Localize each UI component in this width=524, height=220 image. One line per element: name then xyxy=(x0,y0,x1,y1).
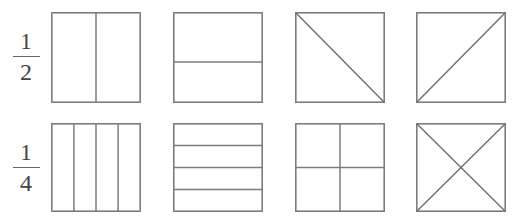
fraction-denominator: 2 xyxy=(20,60,32,84)
fraction-label-one-quarter: 1 4 xyxy=(6,134,46,202)
fraction-denominator: 4 xyxy=(20,171,32,195)
square-diagonal-quarters xyxy=(416,123,506,212)
square-vertical-halves xyxy=(51,12,141,103)
square-horizontal-quarters-svg xyxy=(173,123,263,212)
square-cross-quarters xyxy=(295,123,385,212)
fraction-worksheet: 1 2 1 4 xyxy=(0,0,524,220)
square-diagonal-halves-bl-tr xyxy=(416,12,506,103)
square-diagonal-halves-tl-br xyxy=(295,12,385,103)
square-vertical-halves-svg xyxy=(51,12,141,103)
fraction-numerator: 1 xyxy=(20,30,32,53)
square-diagonal-quarters-svg xyxy=(416,123,506,212)
fraction-bar xyxy=(13,56,40,57)
square-vertical-quarters-svg xyxy=(51,123,141,212)
fraction-label-one-half: 1 2 xyxy=(6,23,46,91)
square-horizontal-quarters xyxy=(173,123,263,212)
square-horizontal-halves-svg xyxy=(173,12,263,103)
square-vertical-quarters xyxy=(51,123,141,212)
fraction-bar xyxy=(13,167,40,168)
square-diagonal-halves-bl-tr-svg xyxy=(416,12,506,103)
fraction-numerator: 1 xyxy=(20,141,32,164)
square-cross-quarters-svg xyxy=(295,123,385,212)
square-outline xyxy=(174,13,262,102)
square-horizontal-halves xyxy=(173,12,263,103)
square-diagonal-halves-tl-br-svg xyxy=(295,12,385,103)
